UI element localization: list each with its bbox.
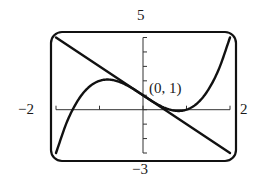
point-annotation: (0, 1) [149,81,182,96]
x-min-label: −2 [18,102,34,117]
x-max-label: 2 [240,102,248,117]
y-min-label: −3 [132,162,148,177]
y-max-label: 5 [137,8,145,23]
graphing-calculator-screen [0,0,255,184]
